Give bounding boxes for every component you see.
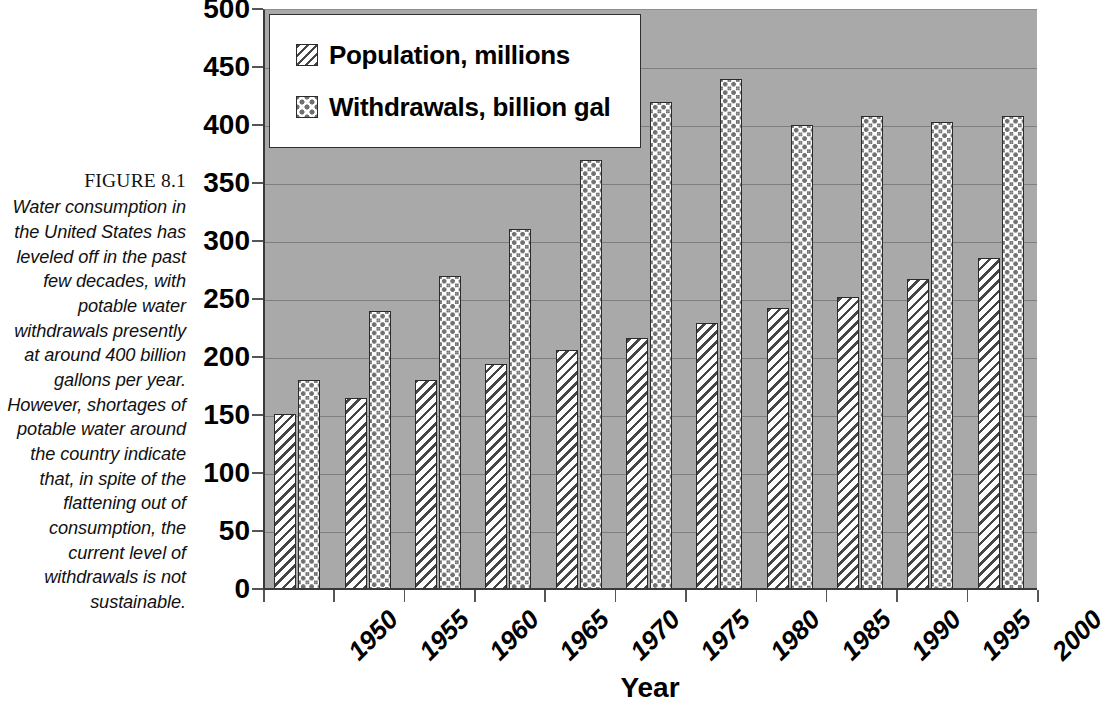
y-axis-tick-mark [252,472,263,474]
x-axis-tick-mark [615,590,617,602]
y-axis-tick-labels: 050100150200250300350400450500 [186,0,256,600]
bar-withdrawals-1970 [580,160,602,589]
legend-label-withdrawals: Withdrawals, billion gal [329,92,610,123]
x-axis-tick-label-1995: 1995 [975,604,1038,667]
y-axis-tick-label: 450 [203,53,250,81]
x-axis-tick-mark [263,590,265,602]
y-axis-tick-label: 150 [203,401,250,429]
bar-population-1995 [907,279,929,589]
diagonal-hatch-swatch-icon [296,44,318,66]
y-axis-tick-label: 300 [203,227,250,255]
x-axis-tick-label-2000: 2000 [1046,604,1105,667]
bar-withdrawals-1965 [509,229,531,589]
y-axis-tick-mark [252,530,263,532]
x-axis-tick-label-1950: 1950 [342,604,405,667]
x-axis-tick-mark [967,590,969,602]
x-axis-tick-label-1965: 1965 [553,604,616,667]
chart-legend: Population, millions Withdrawals, billio… [269,14,641,148]
bar-withdrawals-1985 [791,125,813,589]
y-axis-tick-mark [252,182,263,184]
y-axis-tick-mark [252,588,263,590]
x-axis-tick-mark [404,590,406,602]
x-axis-tick-marks [263,590,1037,603]
y-axis-tick-mark [252,240,263,242]
y-axis-tick-label: 350 [203,169,250,197]
y-axis-tick-mark [252,8,263,10]
legend-label-population: Population, millions [329,40,570,71]
y-axis-tick-mark [252,356,263,358]
y-axis-tick-label: 100 [203,459,250,487]
bar-population-1985 [767,308,789,589]
y-axis-tick-label: 0 [234,575,250,603]
plot-area: Population, millions Withdrawals, billio… [263,9,1037,589]
x-axis-tick-label-1975: 1975 [694,604,757,667]
y-axis-tick-mark [252,124,263,126]
y-axis-tick-label: 500 [203,0,250,23]
x-axis-tick-mark [544,590,546,602]
y-axis-tick-mark [252,298,263,300]
x-axis-title: Year [263,672,1037,704]
bar-population-1950 [274,414,296,589]
bar-population-1975 [626,338,648,589]
bar-population-1955 [345,398,367,589]
y-axis-tick-label: 200 [203,343,250,371]
legend-item-population: Population, millions [296,29,640,81]
bar-withdrawals-1950 [298,380,320,589]
bar-population-1965 [485,364,507,589]
x-axis-tick-mark [756,590,758,602]
bar-withdrawals-1955 [369,311,391,589]
x-axis-tick-label-1955: 1955 [412,604,475,667]
x-axis-tick-mark [474,590,476,602]
y-axis-tick-mark [252,66,263,68]
y-axis-tick-label: 50 [219,517,250,545]
legend-item-withdrawals: Withdrawals, billion gal [296,81,640,133]
bar-withdrawals-1975 [650,102,672,589]
x-axis-tick-mark [685,590,687,602]
bar-withdrawals-1990 [861,116,883,589]
bar-population-1980 [696,323,718,589]
x-axis-tick-mark [826,590,828,602]
bar-population-1970 [556,350,578,589]
x-axis-tick-label-1970: 1970 [624,604,687,667]
bar-withdrawals-2000 [1002,116,1024,589]
bar-withdrawals-1980 [720,79,742,589]
x-axis-tick-label-1990: 1990 [905,604,968,667]
y-axis-tick-label: 400 [203,111,250,139]
y-axis-tick-label: 250 [203,285,250,313]
x-axis-tick-labels: 1950195519601965197019751980198519901995… [263,604,1037,674]
bar-population-1960 [415,380,437,589]
bar-withdrawals-1995 [931,122,953,589]
x-axis-tick-label-1985: 1985 [835,604,898,667]
bar-population-1990 [837,297,859,589]
bar-withdrawals-1960 [439,276,461,589]
x-axis-tick-label-1980: 1980 [764,604,827,667]
bar-population-2000 [978,258,1000,589]
x-axis-tick-label-1960: 1960 [483,604,546,667]
x-axis-tick-mark [1037,590,1039,602]
y-axis-tick-mark [252,414,263,416]
x-axis-tick-mark [333,590,335,602]
x-axis-tick-mark [896,590,898,602]
checkered-dot-swatch-icon [296,96,318,118]
